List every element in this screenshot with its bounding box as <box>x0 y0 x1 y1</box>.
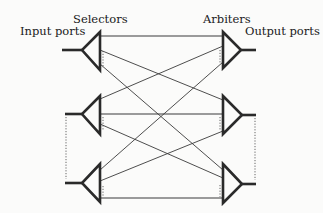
arbiter-2-arbiter-icon <box>223 96 256 134</box>
selector-3-selector-icon <box>65 164 100 202</box>
switch-network-diagram <box>0 0 323 213</box>
selector-2-selector-icon <box>65 96 100 134</box>
connection-selector-1-to-arbiter-2 <box>100 50 223 100</box>
connection-lines <box>100 36 223 198</box>
dotted-lines <box>66 50 255 197</box>
nodes <box>62 32 256 203</box>
diagram-canvas: Input ports Selectors Arbiters Output po… <box>0 0 323 213</box>
arbiter-3-arbiter-icon <box>223 164 256 203</box>
connection-selector-2-to-arbiter-1 <box>100 46 223 99</box>
connection-selector-2-to-arbiter-3 <box>100 124 223 178</box>
connection-selector-3-to-arbiter-2 <box>100 131 223 181</box>
selector-1-selector-icon <box>62 32 100 70</box>
arbiter-1-arbiter-icon <box>223 32 256 68</box>
